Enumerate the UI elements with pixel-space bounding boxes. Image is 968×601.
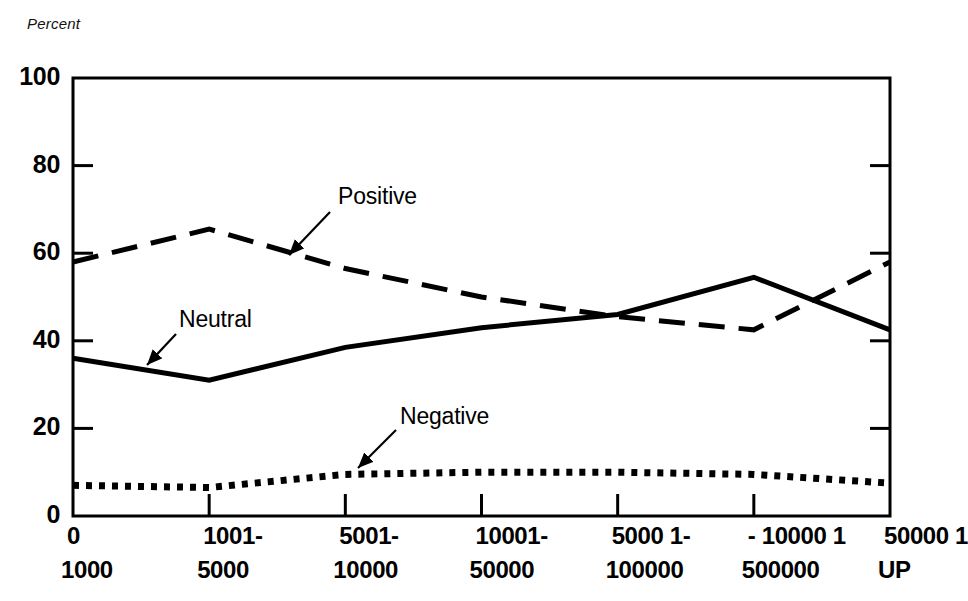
x-axis-tick-label-top: 1001-	[203, 522, 262, 550]
x-axis-ticks	[209, 494, 754, 516]
series-label-positive: Positive	[338, 183, 417, 210]
annotation-arrow-positive	[289, 212, 330, 255]
annotation-arrow-negative	[358, 430, 396, 468]
y-axis-tick-label: 20	[6, 412, 60, 441]
annotation-arrow-neutral	[147, 334, 176, 365]
series-label-neutral: Neutral	[179, 306, 252, 333]
x-axis-tick-label-bottom: 100000	[606, 556, 684, 584]
x-axis-tick-label-top: - 10000 1	[748, 522, 846, 550]
x-axis-tick-label-top: 5001-	[339, 522, 398, 550]
series-lines	[73, 229, 890, 487]
x-axis-tick-label-bottom: UP	[878, 556, 911, 584]
series-label-negative: Negative	[400, 403, 489, 430]
x-axis-tick-label-bottom: 5000	[197, 556, 249, 584]
x-axis-tick-label-bottom: 50000	[470, 556, 535, 584]
x-axis-tick-label-bottom: 10000	[333, 556, 398, 584]
y-axis-tick-label: 40	[6, 325, 60, 354]
y-axis-tick-label: 100	[6, 62, 60, 91]
x-axis-tick-label-top: 5000 1-	[612, 522, 691, 550]
x-axis-tick-label-top: 50000 1	[884, 522, 968, 550]
x-axis-tick-label-bottom: 1000	[61, 556, 113, 584]
y-axis-tick-label: 80	[6, 150, 60, 179]
annotation-arrows	[147, 212, 396, 468]
y-axis-tick-label: 60	[6, 237, 60, 266]
y-axis-tick-label: 0	[6, 500, 60, 529]
x-axis-tick-label-top: 0	[67, 522, 80, 550]
x-axis-tick-label-bottom: 500000	[742, 556, 820, 584]
x-axis-tick-label-top: 10001-	[476, 522, 548, 550]
series-line-negative	[73, 472, 890, 487]
